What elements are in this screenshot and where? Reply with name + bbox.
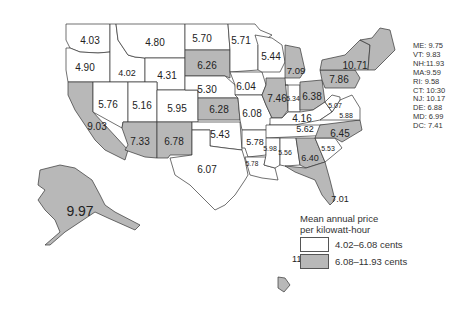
state-value-ky: 4.16 <box>292 113 312 124</box>
state-value-wa: 4.03 <box>80 35 100 46</box>
state-value-ia: 6.04 <box>236 81 256 92</box>
state-value-mn: 5.71 <box>231 35 251 46</box>
state-value-nm: 6.78 <box>164 136 184 147</box>
state-value-wv: 5.07 <box>328 102 342 109</box>
legend-swatch-low <box>300 237 329 252</box>
state-value-mi: 7.09 <box>287 65 306 76</box>
legend-label-high: 6.08–11.93 cents <box>335 256 407 267</box>
state-hi <box>278 277 290 292</box>
state-value-ok: 5.43 <box>210 129 230 140</box>
legend-label-low: 4.02–6.08 cents <box>335 239 403 250</box>
state-fl <box>285 162 335 205</box>
state-value-wy: 4.31 <box>157 70 177 81</box>
state-value-al: 5.56 <box>278 149 292 156</box>
state-value-ks: 6.28 <box>209 104 229 115</box>
state-value-az: 7.33 <box>130 136 150 147</box>
state-value-ne: 5.30 <box>197 84 217 95</box>
state-value-va: 5.88 <box>339 112 353 119</box>
state-value-co: 5.95 <box>167 103 187 114</box>
state-value-fl: 7.01 <box>331 194 349 204</box>
state-value-in: 5.34 <box>286 95 300 102</box>
state-value-sc: 5.53 <box>321 145 335 152</box>
state-value-pa: 7.86 <box>329 74 349 85</box>
state-value-nd: 5.70 <box>192 33 212 44</box>
legend-title-line2: per kilowatt-hour <box>300 224 407 235</box>
legend-title-line1: Mean annual price <box>300 213 407 224</box>
side-item-dc: DC: 7.41 <box>413 122 445 131</box>
state-value-il: 7.46 <box>267 93 287 104</box>
state-value-ny: 10.71 <box>342 60 367 71</box>
state-value-tn: 5.62 <box>296 124 314 134</box>
northeast-values-list: ME: 9.75 VT: 9.83 NH:11.93 MA:9.59 RI: 9… <box>413 42 445 131</box>
legend-item-low: 4.02–6.08 cents <box>300 237 407 252</box>
state-value-oh: 6.38 <box>302 91 322 102</box>
state-value-ak: 9.97 <box>66 203 93 219</box>
state-value-ga: 6.40 <box>301 153 319 163</box>
state-value-ar: 5.78 <box>246 137 264 147</box>
state-value-ut: 5.16 <box>132 100 152 111</box>
state-value-or: 4.90 <box>75 62 95 73</box>
state-value-tx: 6.07 <box>197 164 217 175</box>
legend-item-high: 6.08–11.93 cents <box>300 254 407 269</box>
state-value-la: 5.78 <box>246 160 259 167</box>
state-value-mo: 6.08 <box>242 108 262 119</box>
us-electricity-price-map: 4.034.909.034.025.764.804.315.167.335.95… <box>0 0 455 320</box>
legend: Mean annual price per kilowatt-hour 4.02… <box>300 213 407 269</box>
state-value-id: 4.02 <box>118 68 136 78</box>
state-value-nv: 5.76 <box>98 99 118 110</box>
state-value-sd: 6.26 <box>197 60 217 71</box>
legend-swatch-high <box>300 254 329 269</box>
state-value-wi: 5.44 <box>261 51 281 62</box>
state-value-mt: 4.80 <box>145 37 165 48</box>
state-value-ca: 9.03 <box>87 121 107 132</box>
state-value-ms: 5.98 <box>263 145 277 152</box>
state-value-nc: 6.45 <box>330 128 350 139</box>
